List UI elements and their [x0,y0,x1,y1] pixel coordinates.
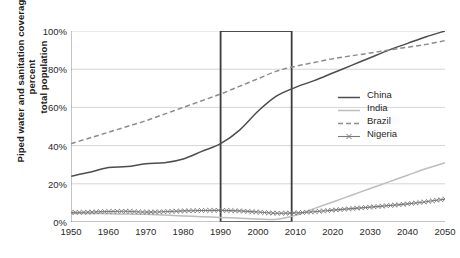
x-tick-label: 2040 [397,226,418,237]
x-tick-label: 1970 [135,226,156,237]
x-tick-label: 1990 [210,226,231,237]
y-tick-label: 60% [48,102,67,113]
x-tick-label: 2000 [247,226,268,237]
legend-label: China [367,89,392,100]
figure: Piped water and sanitation coverage, per… [0,0,460,258]
x-tick-label: 2030 [360,226,381,237]
x-tick-label: 1980 [173,226,194,237]
x-tick-label: 2010 [285,226,306,237]
legend-item-nigeria[interactable]: Nigeria [337,127,417,140]
x-axis-tick-labels: 1950196019701980199020002010202020302040… [71,226,445,240]
legend-item-india[interactable]: India [337,101,417,114]
legend-label: India [367,102,388,113]
y-tick-label: 80% [48,64,67,75]
x-tick-label: 1950 [60,226,81,237]
y-tick-label: 100% [43,26,67,37]
legend-item-brazil[interactable]: Brazil [337,114,417,127]
y-tick-label: 20% [48,178,67,189]
legend-label: Brazil [367,115,391,126]
legend-label: Nigeria [367,128,397,139]
legend-swatch-icon [337,102,361,113]
y-tick-label: 40% [48,140,67,151]
series-line-nigeria [71,199,445,213]
x-tick-label: 1960 [98,226,119,237]
highlight-box [221,31,292,222]
legend-swatch-icon [337,128,361,139]
x-tick-label: 2050 [434,226,455,237]
figure-caption [6,250,454,258]
legend-item-china[interactable]: China [337,88,417,101]
chart-legend: ChinaIndiaBrazilNigeria [337,88,417,140]
x-tick-label: 2020 [322,226,343,237]
legend-swatch-icon [337,89,361,100]
legend-swatch-icon [337,115,361,126]
y-axis-tick-labels: 0%20%40%60%80%100% [28,31,67,222]
